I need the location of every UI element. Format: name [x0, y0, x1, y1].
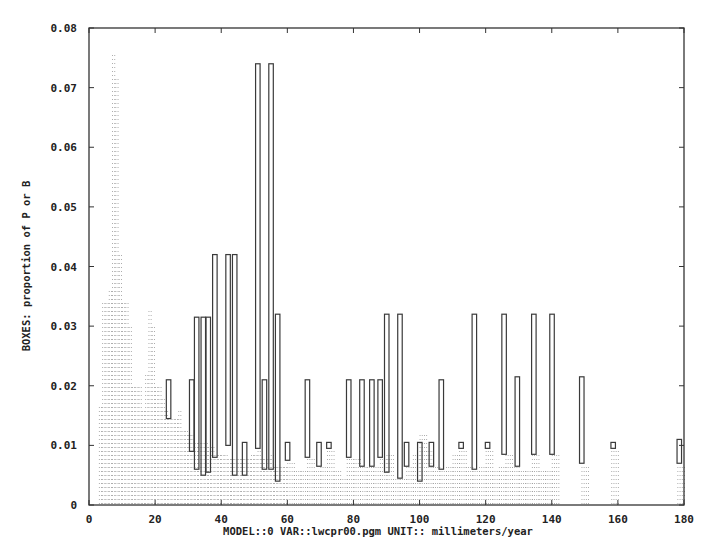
box-bar	[346, 380, 351, 458]
plot-frame	[89, 28, 684, 505]
box-bar	[189, 380, 194, 452]
x-axis-title: MODEL::0 VAR::lwcpr00.pgm UNIT:: millime…	[223, 525, 533, 537]
box-bar	[385, 314, 390, 472]
x-tick-label: 140	[542, 513, 562, 526]
box-bar	[404, 442, 409, 466]
y-tick-label: 0.04	[51, 261, 78, 274]
box-bar	[275, 314, 280, 481]
box-bar	[550, 314, 555, 454]
box-bar	[269, 64, 274, 469]
box-bar	[206, 317, 211, 472]
solid-box-series	[166, 64, 681, 481]
box-bar	[262, 380, 267, 469]
box-bar	[611, 442, 616, 448]
dotted-distribution-series	[99, 55, 685, 504]
x-axis: 020406080100120140160180	[86, 28, 694, 526]
box-bar	[677, 439, 682, 463]
y-tick-label: 0.07	[51, 82, 78, 95]
box-bar	[194, 317, 199, 469]
x-tick-label: 180	[674, 513, 694, 526]
box-bar	[439, 380, 444, 469]
box-bar	[226, 255, 231, 446]
box-bar	[285, 442, 290, 460]
y-tick-label: 0.05	[51, 201, 78, 214]
box-bar	[378, 380, 383, 458]
box-bar	[532, 314, 537, 454]
box-bar	[242, 442, 247, 475]
y-axis-title: BOXES: proportion of P or B	[20, 181, 32, 352]
x-tick-label: 20	[148, 513, 161, 526]
box-bar	[580, 377, 585, 463]
box-bar	[515, 377, 520, 466]
y-axis: 00.010.020.030.040.050.060.070.08	[51, 22, 685, 512]
box-bar	[166, 380, 171, 419]
y-tick-label: 0.08	[51, 22, 78, 35]
box-bar	[232, 255, 237, 476]
y-tick-label: 0.06	[51, 141, 78, 154]
box-bar	[459, 442, 464, 448]
box-bar	[317, 442, 322, 466]
box-bar	[305, 380, 310, 458]
y-tick-label: 0.02	[51, 380, 78, 393]
y-tick-label: 0.01	[51, 439, 78, 452]
histogram-chart: 00.010.020.030.040.050.060.070.08 020406…	[0, 0, 714, 556]
box-bar	[360, 380, 365, 466]
box-bar	[472, 314, 477, 469]
box-bar	[327, 442, 332, 448]
x-tick-label: 0	[86, 513, 93, 526]
box-bar	[213, 255, 218, 458]
box-bar	[256, 64, 260, 449]
box-bar	[485, 442, 490, 448]
box-bar	[502, 314, 507, 454]
box-bar	[398, 314, 403, 478]
box-bar	[429, 442, 434, 466]
y-tick-label: 0.03	[51, 320, 78, 333]
y-tick-label: 0	[70, 499, 77, 512]
x-tick-label: 160	[608, 513, 628, 526]
box-bar	[370, 380, 375, 466]
